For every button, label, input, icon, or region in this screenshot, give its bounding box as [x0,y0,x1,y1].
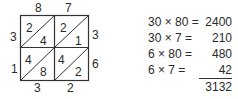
bottom-digit: 2 [67,82,74,94]
bottom-digit: 3 [34,82,41,94]
partial-value: 210 [194,32,232,44]
cell-upper-digit: 4 [25,54,32,66]
partial-expr: 30 × 80 = [148,16,199,28]
sum-rule [199,78,232,79]
right-digit: 3 [92,29,99,41]
right-digit: 6 [92,58,99,70]
left-digit: 1 [11,63,18,75]
left-digit: 3 [10,31,17,43]
partial-expr: 6 × 7 = [148,64,185,76]
cell-lower-digit: 1 [75,35,82,47]
partial-expr: 30 × 7 = [148,32,192,44]
cell-upper-digit: 4 [58,54,65,66]
top-digit: 7 [65,2,72,14]
cell-upper-digit: 2 [60,22,67,34]
cell-lower-digit: 4 [40,35,47,47]
partial-value: 2400 [194,16,232,28]
cell-lower-digit: 2 [75,66,82,78]
cell-lower-digit: 8 [40,66,47,78]
total-value: 3132 [194,81,232,93]
cell-upper-digit: 2 [26,22,33,34]
top-digit: 8 [35,2,42,14]
partial-value: 42 [194,64,232,76]
partial-expr: 6 × 80 = [148,48,192,60]
partial-value: 480 [194,48,232,60]
